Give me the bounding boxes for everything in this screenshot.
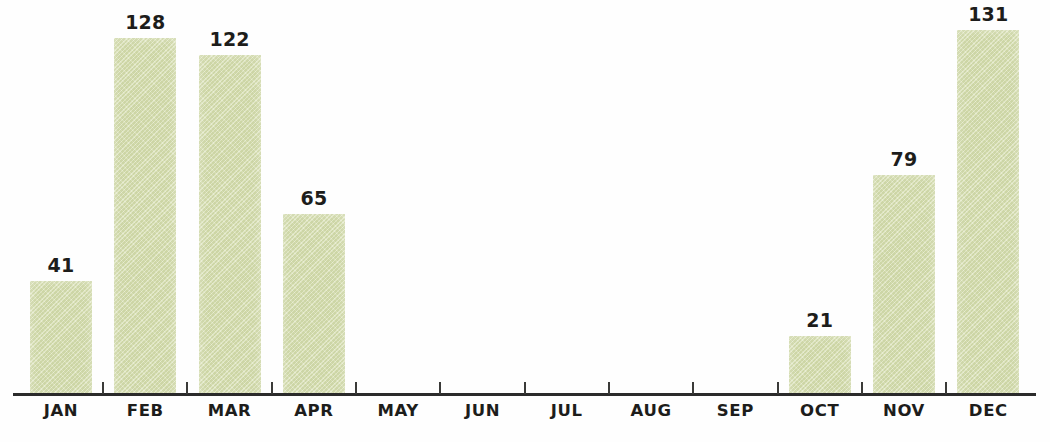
x-axis-tick — [777, 382, 779, 394]
bar-value-label-mar: 122 — [209, 30, 249, 49]
x-axis-tick — [186, 382, 188, 394]
bar-value-label-feb: 128 — [125, 13, 165, 32]
x-axis-tick — [861, 382, 863, 394]
x-label-feb: FEB — [114, 403, 176, 420]
bar-value-label-oct: 21 — [806, 311, 833, 330]
x-label-jan: JAN — [30, 403, 92, 420]
x-axis-tick — [355, 382, 357, 394]
bar-chart: 41128122652179131 JANFEBMARAPRMAYJUNJULA… — [0, 0, 1050, 442]
x-label-mar: MAR — [199, 403, 261, 420]
bar-feb — [114, 38, 176, 395]
x-axis-tick — [102, 382, 104, 394]
bar-group-nov: 79 — [873, 0, 935, 395]
x-label-nov: NOV — [873, 403, 935, 420]
bar-nov — [873, 175, 935, 395]
x-label-jul: JUL — [536, 403, 598, 420]
x-label-aug: AUG — [620, 403, 682, 420]
bar-mar — [199, 55, 261, 395]
x-label-sep: SEP — [704, 403, 766, 420]
x-label-jun: JUN — [452, 403, 514, 420]
bar-value-label-nov: 79 — [891, 150, 918, 169]
bar-value-label-jan: 41 — [48, 256, 75, 275]
bar-group-mar: 122 — [199, 0, 261, 395]
x-axis-tick — [608, 382, 610, 394]
x-axis-tick — [524, 382, 526, 394]
x-label-apr: APR — [283, 403, 345, 420]
bar-apr — [283, 214, 345, 395]
x-label-may: MAY — [367, 403, 429, 420]
plot-area: 41128122652179131 — [0, 0, 1050, 395]
x-axis-tick — [945, 382, 947, 394]
bar-group-dec: 131 — [957, 0, 1019, 395]
bar-group-feb: 128 — [114, 0, 176, 395]
bar-group-apr: 65 — [283, 0, 345, 395]
bar-value-label-apr: 65 — [300, 189, 327, 208]
bar-value-label-dec: 131 — [968, 5, 1008, 24]
x-axis-tick — [271, 382, 273, 394]
x-axis-tick — [692, 382, 694, 394]
bar-group-jan: 41 — [30, 0, 92, 395]
x-axis-category-labels: JANFEBMARAPRMAYJUNJULAUGSEPOCTNOVDEC — [0, 399, 1050, 442]
x-label-oct: OCT — [789, 403, 851, 420]
x-label-dec: DEC — [957, 403, 1019, 420]
x-axis-tick — [439, 382, 441, 394]
bar-group-oct: 21 — [789, 0, 851, 395]
bar-oct — [789, 336, 851, 395]
bar-jan — [30, 281, 92, 395]
bar-dec — [957, 30, 1019, 395]
